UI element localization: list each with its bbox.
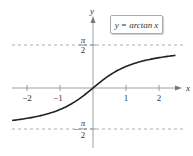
x-tick-label: −2: [22, 93, 32, 103]
svg-text:2: 2: [81, 130, 86, 140]
x-axis-arrow-icon: [175, 86, 182, 91]
legend-var: x: [154, 20, 158, 30]
x-axis-label: x: [185, 83, 190, 93]
svg-text:2: 2: [81, 45, 86, 55]
svg-text:−: −: [73, 124, 78, 134]
legend-prefix: y = arctan: [115, 20, 153, 30]
x-tick-label: 2: [157, 93, 162, 103]
y-axis-label: y: [89, 6, 94, 16]
arctan-chart: −2 −1 1 2 x y π 2 − π 2: [0, 0, 193, 156]
x-tick-label: 1: [124, 93, 129, 103]
x-tick-label: −1: [53, 93, 63, 103]
svg-text:π: π: [81, 35, 86, 45]
svg-text:π: π: [81, 118, 86, 128]
y-tick-label-neg-pi-half: − π 2: [73, 118, 87, 140]
y-axis-arrow-icon: [91, 16, 96, 23]
y-tick-label-pi-half: π 2: [79, 35, 87, 55]
legend: y = arctan x: [110, 15, 163, 34]
